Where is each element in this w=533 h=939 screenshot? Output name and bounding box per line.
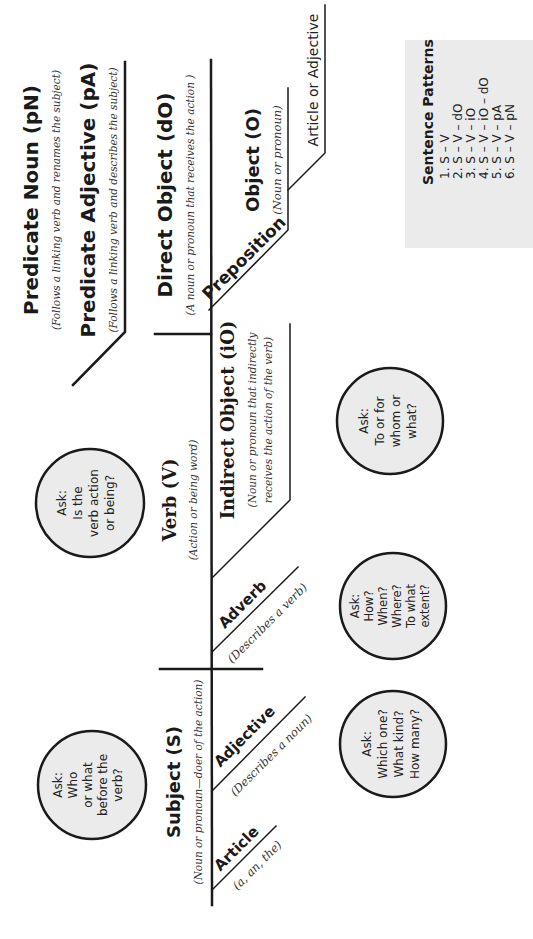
question-circle-subject: Ask: Who or what before the verb? (38, 731, 146, 839)
pattern-2: 2. S – V – dO (451, 104, 465, 179)
predicate-adjective-label: Predicate Adjective (pA) (76, 63, 100, 338)
pattern-1: 1. S – V (438, 133, 452, 179)
svg-text:To or for: To or for (373, 396, 387, 446)
question-circle-adverb: Ask: How? When? Where? To what extent? (340, 553, 446, 659)
svg-text:Ask:: Ask: (55, 490, 69, 515)
pattern-4: 4. S – V – iO – dO (477, 77, 491, 179)
direct-object-label: Direct Object (dO) (153, 93, 177, 298)
indirect-object-note-line2: receives the action of the verb) (262, 337, 274, 503)
svg-text:To what: To what (404, 584, 418, 630)
sentence-patterns-box: Sentence Patterns 1. S – V 2. S – V – dO… (405, 39, 533, 248)
svg-text:Who: Who (66, 772, 80, 799)
svg-text:verb action: verb action (87, 469, 101, 537)
svg-text:or being?: or being? (103, 475, 117, 531)
svg-text:Is the: Is the (71, 486, 85, 519)
object-label: Object (O) (242, 108, 263, 212)
svg-text:extent?: extent? (418, 584, 432, 627)
indirect-object-label: Indirect Object (iO) (217, 321, 238, 520)
svg-text:How?: How? (362, 590, 376, 621)
adverb-note: (Describes a verb) (224, 580, 310, 666)
indirect-object-note-line1: (Noun or pronoun that indirectly (246, 332, 258, 508)
pattern-6: 6. S – V – pN (503, 104, 517, 179)
article-or-adjective-label: Article or Adjective (305, 14, 321, 147)
predicate-adjective-note: (Follows a linking verb and describes th… (107, 67, 119, 332)
svg-text:Ask:: Ask: (360, 731, 374, 756)
question-circle-adjective: Ask: Which one? What kind? How many? (340, 691, 446, 797)
svg-text:Ask:: Ask: (348, 594, 362, 618)
subject-label: Subject (S) (163, 726, 184, 838)
svg-text:What kind?: What kind? (392, 710, 406, 777)
svg-text:Which one?: Which one? (376, 709, 390, 779)
pattern-3: 3. S – V – iO (464, 108, 478, 179)
adjective-note: (Describes a noun) (227, 711, 315, 799)
svg-text:Ask:: Ask: (357, 408, 371, 433)
pattern-5: 5. S – V – pA (490, 104, 504, 179)
svg-text:How many?: How many? (408, 709, 422, 779)
sentence-patterns-title: Sentence Patterns (420, 39, 436, 185)
predicate-noun-label: Predicate Noun (pN) (19, 85, 43, 315)
object-note: (Noun or pronoun) (270, 105, 284, 214)
main-baseline (211, 60, 212, 905)
svg-text:before the: before the (96, 754, 110, 816)
svg-text:When?: When? (376, 586, 390, 625)
svg-text:Where?: Where? (390, 584, 404, 627)
verb-note: (Action or being word) (187, 440, 199, 561)
sentence-diagram: Predicate Noun (pN) (Follows a linking v… (0, 0, 533, 939)
svg-text:or what: or what (81, 762, 95, 808)
predicate-noun-note: (Follows a linking verb and renames the … (50, 70, 62, 330)
svg-text:what?: what? (405, 403, 419, 439)
svg-text:whom or: whom or (389, 395, 403, 448)
direct-object-note: (A noun or pronoun that receives the act… (184, 75, 196, 316)
question-circle-verb: Ask: Is the verb action or being? (36, 449, 144, 557)
verb-label: Verb (V) (159, 458, 180, 542)
question-circle-indirect-object: Ask: To or for whom or what? (337, 368, 443, 474)
svg-text:verb?: verb? (111, 768, 125, 801)
svg-text:Ask:: Ask: (51, 772, 65, 797)
subject-note: (Noun or pronoun—doer of the action) (192, 680, 204, 885)
